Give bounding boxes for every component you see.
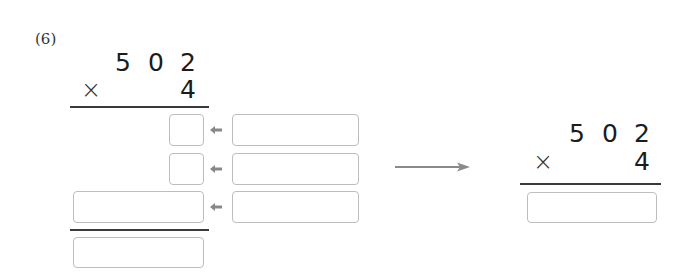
multiply-sign: ×: [81, 78, 99, 102]
multiplicand-digit-hundreds: 5: [112, 50, 134, 75]
hint-box-2[interactable]: [232, 153, 359, 185]
multiplier-digit: 4: [177, 77, 199, 102]
partial-answer-box-3[interactable]: [73, 191, 204, 223]
partial-answer-box-2[interactable]: [169, 153, 204, 185]
hint-box-1[interactable]: [232, 114, 359, 146]
result-multiplicand-digit-tens: 0: [599, 121, 621, 146]
result-multiplier-digit: 4: [631, 149, 653, 174]
result-multiply-sign: ×: [533, 150, 551, 174]
result-rule-line: [520, 183, 661, 185]
left-arrow-icon: [210, 126, 222, 134]
right-arrow-icon: [395, 162, 470, 172]
result-multiplicand-digit-hundreds: 5: [566, 121, 588, 146]
sum-rule-line: [70, 229, 209, 231]
final-answer-box[interactable]: [527, 192, 657, 223]
left-arrow-icon: [210, 203, 222, 211]
total-answer-box[interactable]: [73, 237, 204, 268]
problem-number-label: (6): [35, 30, 56, 48]
result-multiplicand-digit-ones: 2: [631, 121, 653, 146]
hint-box-3[interactable]: [232, 191, 359, 223]
multiplicand-digit-tens: 0: [145, 50, 167, 75]
multiplicand-digit-ones: 2: [177, 50, 199, 75]
partial-answer-box-1[interactable]: [169, 114, 204, 146]
left-arrow-icon: [210, 165, 222, 173]
product-rule-line: [70, 106, 209, 108]
